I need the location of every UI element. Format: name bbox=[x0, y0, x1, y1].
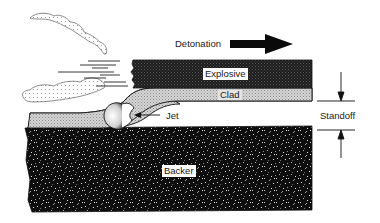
backer-label: Backer bbox=[162, 165, 196, 177]
detonation-label: Detonation bbox=[175, 39, 221, 49]
clad-label: Clad bbox=[218, 90, 242, 100]
standoff-label: Standoff bbox=[320, 111, 355, 121]
explosion-cloud bbox=[22, 13, 128, 102]
jet-label: Jet bbox=[166, 111, 179, 121]
explosive-label: Explosive bbox=[203, 68, 248, 80]
detonation-arrow-icon bbox=[230, 34, 293, 54]
